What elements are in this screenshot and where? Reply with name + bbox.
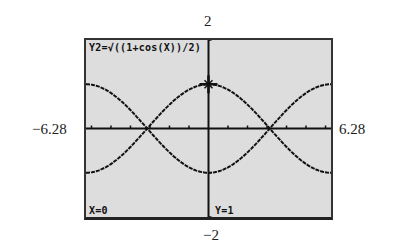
graph-axes xyxy=(86,40,331,217)
window-xmin-label: −6.28 xyxy=(32,122,67,137)
cursor-x-readout: X=0 xyxy=(89,206,108,216)
calculator-graph-screen: Y2=√((1+cos(X))/2) X=0 Y=1 xyxy=(84,38,333,220)
window-ymax-label: 2 xyxy=(204,14,212,29)
window-xmax-label: 6.28 xyxy=(339,122,365,137)
cursor-y-readout: Y=1 xyxy=(215,206,234,216)
equation-label: Y2=√((1+cos(X))/2) xyxy=(89,43,201,53)
trace-cursor-icon xyxy=(200,75,218,93)
graph-plot xyxy=(86,40,331,217)
window-ymin-label: −2 xyxy=(203,228,219,243)
